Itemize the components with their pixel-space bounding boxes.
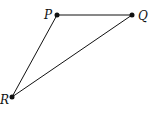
label-r: R bbox=[0, 93, 9, 107]
triangle-diagram: P Q R bbox=[0, 0, 155, 114]
label-p: P bbox=[43, 8, 53, 22]
edge-qr bbox=[12, 15, 132, 97]
label-q: Q bbox=[138, 9, 148, 23]
edge-pr bbox=[12, 15, 57, 97]
point-q bbox=[130, 13, 135, 18]
point-r bbox=[10, 95, 15, 100]
point-p bbox=[55, 13, 60, 18]
